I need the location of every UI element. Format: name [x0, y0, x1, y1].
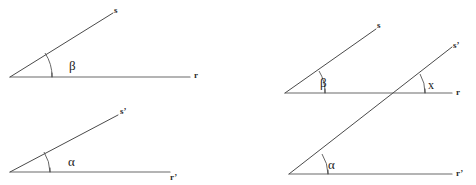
label-right-ray-s: s	[377, 21, 381, 30]
label-right-angle-alpha: α	[328, 158, 335, 171]
right-ray-s-line	[285, 29, 376, 93]
label-right-ray-r: r	[456, 88, 460, 97]
left-top-ray-s-line	[10, 13, 113, 77]
label-left-bottom-ray-s-prime: s’	[120, 107, 127, 116]
label-right-angle-beta: β	[320, 76, 327, 89]
label-left-top-ray-r: r	[194, 71, 198, 80]
diagram-canvas: s r β s’ r’ α s s’ r r’ β α x	[0, 0, 476, 185]
right-ray-s-prime-transversal-line	[289, 47, 452, 174]
label-left-top-angle-beta: β	[69, 59, 76, 72]
left-bottom-alpha-arc	[44, 152, 50, 172]
left-top-angle-group	[10, 13, 190, 77]
left-top-beta-arc	[45, 53, 52, 77]
label-left-bottom-angle-alpha: α	[68, 155, 75, 168]
left-bottom-angle-group	[10, 115, 170, 172]
label-left-bottom-ray-r-prime: r’	[170, 173, 177, 182]
right-x-arc	[420, 74, 425, 93]
scan-artifact	[0, 0, 1, 5]
label-left-top-ray-s: s	[114, 6, 118, 15]
label-right-ray-s-prime: s’	[453, 41, 460, 50]
left-bottom-ray-s-prime-line	[10, 115, 118, 172]
label-right-angle-x: x	[428, 79, 434, 91]
right-construction-group	[285, 29, 452, 174]
label-right-ray-r-prime: r’	[456, 169, 463, 178]
